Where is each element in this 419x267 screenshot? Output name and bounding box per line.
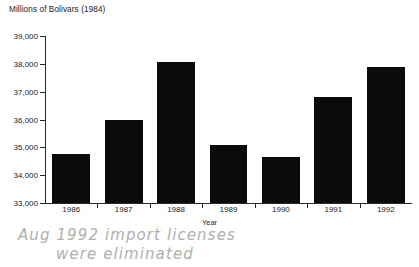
y-axis-tick-label: 34,000 — [14, 171, 38, 180]
y-axis-tick-label: 38,000 — [14, 59, 38, 68]
bar-1988 — [157, 62, 195, 203]
y-axis-tick — [40, 175, 46, 176]
bar-1989 — [210, 145, 248, 203]
y-axis-tick-label: 39,000 — [14, 32, 38, 41]
x-axis-tick-label-1986: 1986 — [62, 205, 80, 214]
y-axis-tick-label: 36,000 — [14, 115, 38, 124]
y-axis-tick — [40, 147, 46, 148]
chart-title: Millions of Bolivars (1984) — [9, 5, 105, 14]
x-axis-tick-label-1987: 1987 — [115, 205, 133, 214]
x-axis-tick-label-1991: 1991 — [324, 205, 342, 214]
y-axis-tick — [40, 203, 46, 204]
bar-1987 — [105, 120, 143, 204]
bar-1991 — [314, 97, 352, 203]
handwritten-annotation-line-2: were eliminated — [56, 245, 318, 264]
handwritten-annotation-line-1: Aug 1992 import licenses — [18, 226, 236, 244]
bar-1992 — [367, 67, 405, 203]
bar-1990 — [262, 157, 300, 203]
y-axis-tick — [40, 36, 46, 37]
plot-area — [45, 36, 412, 203]
y-axis-tick — [40, 64, 46, 65]
handwritten-annotation: Aug 1992 import licenses were eliminated — [18, 226, 318, 264]
y-axis-tick-labels: 33,00034,00035,00036,00037,00038,00039,0… — [0, 36, 38, 203]
y-axis-tick-label: 33,000 — [14, 199, 38, 208]
y-axis-tick — [40, 92, 46, 93]
x-axis-tick-label-1988: 1988 — [167, 205, 185, 214]
x-axis-tick-label-1992: 1992 — [377, 205, 395, 214]
x-axis-tick-label-1990: 1990 — [272, 205, 290, 214]
y-axis-tick-label: 35,000 — [14, 143, 38, 152]
x-axis-tick-labels: 1986198719881989199019911992 — [45, 205, 412, 219]
y-axis-tick-label: 37,000 — [14, 87, 38, 96]
x-axis-line — [45, 203, 412, 204]
y-axis-tick — [40, 120, 46, 121]
x-axis-tick-label-1989: 1989 — [220, 205, 238, 214]
bar-1986 — [52, 154, 90, 203]
